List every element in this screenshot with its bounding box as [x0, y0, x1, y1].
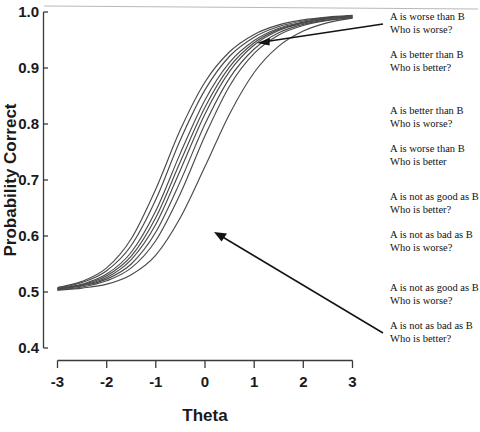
- x-tick-label: 2: [299, 373, 307, 390]
- curve-annotation: A is better than BWho is worse?: [390, 105, 464, 129]
- annotation-line-2: Who is better?: [390, 62, 452, 73]
- annotation-line-1: A is not as good as B: [390, 191, 479, 202]
- curve-series: [58, 18, 353, 290]
- curve-annotation: A is worse than BWho is worse?: [390, 11, 465, 35]
- y-tick-label: 0.6: [18, 227, 39, 244]
- curve-annotation: A is better than BWho is better?: [390, 49, 464, 73]
- curve-series-group: [58, 15, 353, 290]
- lower-callout-leader: [214, 232, 383, 333]
- annotation-line-2: Who is worse?: [390, 24, 453, 35]
- chart-page: 1.0 0.9 0.8 0.7 0.6 0.5 0.4 Probability …: [0, 0, 480, 432]
- curve-series: [58, 15, 353, 287]
- probability-correct-chart: 1.0 0.9 0.8 0.7 0.6 0.5 0.4 Probability …: [0, 0, 480, 432]
- annotation-line-1: A is worse than B: [390, 11, 465, 22]
- lower-arrowhead: [214, 232, 227, 242]
- y-tick-label: 1.0: [18, 3, 39, 20]
- y-axis: 1.0 0.9 0.8 0.7 0.6 0.5 0.4 Probability …: [1, 3, 48, 356]
- x-tick-label: 0: [201, 373, 209, 390]
- annotation-line-1: A is not as good as B: [390, 282, 479, 293]
- annotation-label-group: A is worse than BWho is worse?A is bette…: [390, 11, 479, 344]
- x-tick-label: 1: [250, 373, 258, 390]
- curve-series: [58, 18, 353, 290]
- x-axis: -3 -2 -1 0 1 2 3 Theta: [51, 361, 357, 426]
- x-axis-title: Theta: [182, 406, 228, 425]
- annotation-line-2: Who is worse?: [390, 295, 453, 306]
- curve-annotation: A is not as good as BWho is worse?: [390, 282, 479, 306]
- y-axis-title: Probability Correct: [1, 103, 20, 256]
- annotation-line-2: Who is worse?: [390, 242, 453, 253]
- annotation-line-1: A is not as bad as B: [390, 229, 473, 240]
- annotation-line-1: A is worse than B: [390, 143, 465, 154]
- x-tick-label: -1: [149, 373, 162, 390]
- curve-annotation: A is not as good as BWho is better?: [390, 191, 479, 215]
- y-tick-label: 0.8: [18, 115, 39, 132]
- scan-artifact-line: [44, 6, 478, 9]
- curve-series: [58, 18, 353, 290]
- annotation-line-1: A is better than B: [390, 105, 464, 116]
- x-axis-ticks: [58, 361, 353, 369]
- y-axis-ticks: [44, 12, 49, 348]
- annotation-line-1: A is not as bad as B: [390, 320, 473, 331]
- y-tick-label: 0.9: [18, 59, 39, 76]
- x-axis-tick-labels: -3 -2 -1 0 1 2 3: [51, 373, 357, 390]
- annotation-line-2: Who is better?: [390, 204, 452, 215]
- curve-series: [58, 16, 353, 288]
- annotation-line-2: Who is better: [390, 156, 447, 167]
- y-tick-label: 0.7: [18, 171, 39, 188]
- annotation-line-1: A is better than B: [390, 49, 464, 60]
- curve-annotation: A is worse than BWho is better: [390, 143, 465, 167]
- annotation-line-2: Who is better?: [390, 333, 452, 344]
- y-tick-label: 0.5: [18, 283, 39, 300]
- x-tick-label: -3: [51, 373, 64, 390]
- curve-series: [58, 16, 353, 289]
- curve-annotation: A is not as bad as BWho is better?: [390, 320, 473, 344]
- curve-annotation: A is not as bad as BWho is worse?: [390, 229, 473, 253]
- y-axis-tick-labels: 1.0 0.9 0.8 0.7 0.6 0.5 0.4: [18, 3, 40, 356]
- curve-series: [58, 16, 353, 288]
- y-tick-label: 0.4: [18, 339, 40, 356]
- curve-series: [58, 17, 353, 289]
- x-tick-label: -2: [100, 373, 113, 390]
- annotation-line-2: Who is worse?: [390, 118, 453, 129]
- x-tick-label: 3: [348, 373, 356, 390]
